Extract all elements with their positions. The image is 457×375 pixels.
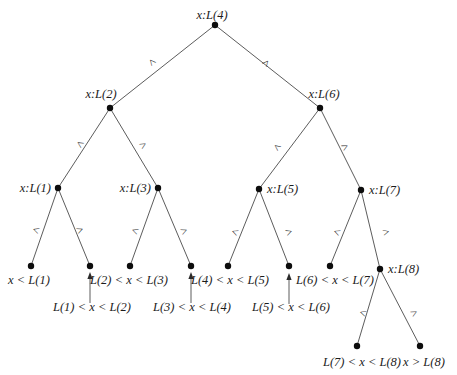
leaf-pointer-arrowhead-F6 (286, 273, 291, 280)
tree-node-dot-N7 (358, 187, 364, 193)
tree-node-label-N8: x:L(8) (387, 262, 419, 276)
tree-node-dot-N4 (212, 22, 218, 28)
tree-node-label-F1: x < L(1) (7, 273, 50, 287)
edge-comparison-label-N1-F2: > (74, 222, 86, 238)
tree-node-label-N5: x:L(5) (266, 182, 298, 196)
tree-edge-N4-N2 (110, 25, 215, 108)
edge-comparison-label-N5-F6: > (283, 224, 295, 240)
tree-node-dot-N2 (107, 105, 113, 111)
tree-node-label-F2: L(1) < x < L(2) (52, 300, 131, 314)
edge-comparison-label-N6-N5: < (270, 139, 284, 154)
tree-node-dot-F3 (127, 263, 133, 269)
tree-node-dot-F8 (354, 343, 360, 349)
edge-comparison-label-N8-F9: > (408, 305, 421, 321)
tree-edge-N7-N8 (361, 190, 380, 269)
tree-node-dot-F7 (327, 263, 333, 269)
tree-edge-N3-F4 (158, 188, 191, 266)
tree-node-label-N6: x:L(6) (307, 87, 339, 101)
edge-comparison-label-N7-N8: > (381, 224, 391, 239)
tree-edge-N2-N3 (110, 108, 158, 188)
tree-edge-N2-N1 (58, 108, 110, 188)
tree-node-label-F8: L(7) < x < L(8) (322, 355, 401, 369)
tree-node-label-F4: L(3) < x < L(4) (152, 300, 231, 314)
edge-comparison-label-N2-N3: > (136, 137, 149, 153)
tree-node-dot-N3 (155, 185, 161, 191)
edge-comparison-label-N4-N6: > (258, 56, 273, 70)
edge-comparison-label-N2-N1: < (73, 136, 86, 152)
tree-node-dot-F6 (286, 263, 292, 269)
tree-node-dot-F2 (87, 263, 93, 269)
tree-edge-N6-N5 (259, 108, 320, 189)
decision-tree-figure: <><><><><><><><>x:L(4)x:L(2)x:L(6)x:L(1)… (0, 0, 457, 375)
decision-tree-canvas: <><><><><><><><>x:L(4)x:L(2)x:L(6)x:L(1)… (0, 0, 457, 375)
tree-node-label-F7: L(6) < x < L(7) (295, 273, 374, 287)
tree-node-label-N2: x:L(2) (84, 87, 116, 101)
tree-node-dot-F4 (188, 263, 194, 269)
edge-comparison-label-N6-N7: > (339, 139, 352, 155)
tree-node-dot-N6 (317, 105, 323, 111)
tree-node-label-F9: x > L(8) (402, 355, 445, 369)
tree-node-dot-N8 (377, 266, 383, 272)
tree-node-dot-F5 (225, 263, 231, 269)
edge-comparison-label-N1-F1: < (31, 222, 42, 238)
tree-node-dot-N1 (55, 185, 61, 191)
tree-node-dot-F1 (28, 263, 34, 269)
tree-node-label-N3: x:L(3) (119, 181, 151, 195)
tree-node-label-N4: x:L(4) (195, 8, 227, 22)
tree-node-label-F5: L(4) < x < L(5) (190, 273, 269, 287)
tree-node-label-N7: x:L(7) (368, 183, 400, 197)
tree-node-dot-N5 (256, 186, 262, 192)
edge-comparison-label-N4-N2: < (144, 55, 159, 69)
tree-node-dot-F9 (417, 343, 423, 349)
tree-node-label-F3: L(2) < x < L(3) (89, 273, 168, 287)
tree-edge-N1-F2 (58, 188, 90, 266)
tree-node-label-N1: x:L(1) (19, 181, 51, 195)
edge-comparison-label-N3-F4: > (178, 223, 190, 239)
edge-comparison-label-N3-F3: < (129, 223, 140, 239)
tree-node-label-F6: L(5) < x < L(6) (251, 300, 330, 314)
tree-edge-N6-N7 (320, 108, 361, 190)
